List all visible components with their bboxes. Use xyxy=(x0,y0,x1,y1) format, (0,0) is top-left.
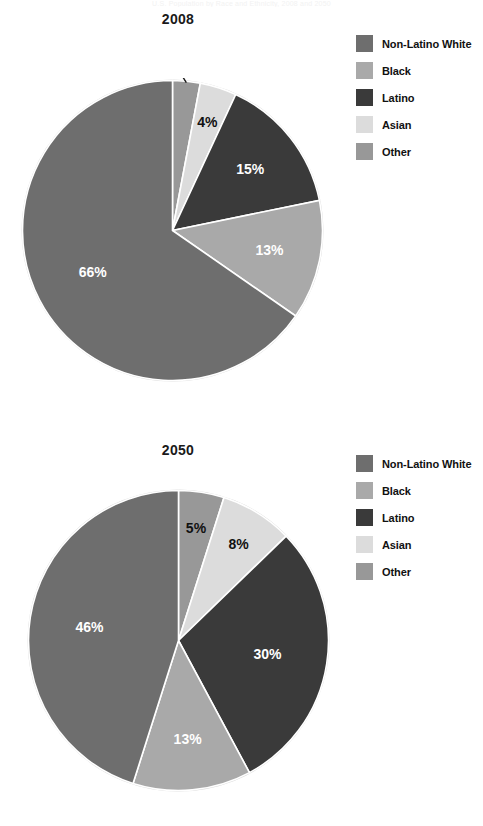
pie-slices-2008 xyxy=(23,81,323,381)
legend-item-asian[interactable]: Asian xyxy=(356,531,481,558)
legend-label-non-latino-white: Non-Latino White xyxy=(382,458,471,470)
legend-swatch-other xyxy=(356,143,373,160)
legend-label-black: Black xyxy=(382,485,411,497)
legend-label-non-latino-white: Non-Latino White xyxy=(382,38,471,50)
legend-swatch-non-latino-white xyxy=(356,35,373,52)
pie-value-label: 13% xyxy=(174,731,203,747)
legend-item-latino[interactable]: Latino xyxy=(356,504,481,531)
pie-value-label: 46% xyxy=(76,619,105,635)
legend-swatch-latino xyxy=(356,509,373,526)
legend-item-non-latino-white[interactable]: Non-Latino White xyxy=(356,450,481,477)
pie-value-label: 15% xyxy=(236,161,265,177)
legend-label-other: Other xyxy=(382,566,411,578)
pie-value-label: 4% xyxy=(197,114,218,130)
legend-item-black[interactable]: Black xyxy=(356,477,481,504)
pie-chart-2050: 5%8%30%13%46% xyxy=(26,488,331,793)
legend-2050: Non-Latino White Black Latino Asian Othe… xyxy=(356,450,481,585)
legend-item-latino[interactable]: Latino xyxy=(356,84,481,111)
pie-value-label: 13% xyxy=(255,242,284,258)
legend-label-asian: Asian xyxy=(382,119,411,131)
pie-value-label: 5% xyxy=(186,520,207,536)
legend-swatch-black xyxy=(356,482,373,499)
legend-item-other[interactable]: Other xyxy=(356,558,481,585)
legend-swatch-asian xyxy=(356,536,373,553)
legend-swatch-other xyxy=(356,563,373,580)
pie-svg-2050: 5%8%30%13%46% xyxy=(26,488,331,793)
legend-label-other: Other xyxy=(382,146,411,158)
legend-label-black: Black xyxy=(382,65,411,77)
pie-value-label: 8% xyxy=(228,536,249,552)
legend-2008: Non-Latino White Black Latino Asian Othe… xyxy=(356,30,481,165)
chart-panel-2008: 2008 4%15%13%66% 3% Non-Latino White Bla… xyxy=(0,0,483,412)
pie-value-label: 66% xyxy=(79,264,108,280)
legend-label-latino: Latino xyxy=(382,92,414,104)
chart-title-2008: 2008 xyxy=(8,11,348,27)
chart-panel-2050: 2050 5%8%30%13%46% Non-Latino White Blac… xyxy=(0,420,483,826)
legend-label-latino: Latino xyxy=(382,512,414,524)
legend-swatch-black xyxy=(356,62,373,79)
legend-swatch-asian xyxy=(356,116,373,133)
legend-label-asian: Asian xyxy=(382,539,411,551)
legend-item-black[interactable]: Black xyxy=(356,57,481,84)
chart-title-2050: 2050 xyxy=(8,442,348,458)
legend-swatch-latino xyxy=(356,89,373,106)
pie-chart-2008: 4%15%13%66% 3% xyxy=(20,78,325,383)
legend-item-asian[interactable]: Asian xyxy=(356,111,481,138)
legend-item-non-latino-white[interactable]: Non-Latino White xyxy=(356,30,481,57)
pie-svg-2008: 4%15%13%66% 3% xyxy=(20,78,325,383)
legend-swatch-non-latino-white xyxy=(356,455,373,472)
pie-value-label: 30% xyxy=(253,646,282,662)
legend-item-other[interactable]: Other xyxy=(356,138,481,165)
